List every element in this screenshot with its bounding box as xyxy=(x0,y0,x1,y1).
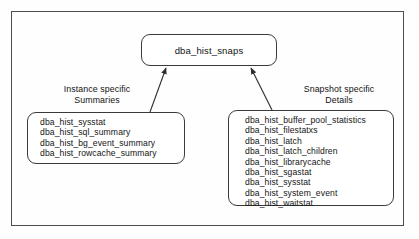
entity-box-snapshot-details[interactable]: dba_hist_buffer_pool_statistics dba_hist… xyxy=(228,110,394,206)
left-group-heading: Instance specific Summaries xyxy=(34,84,160,105)
snapshot-details-list: dba_hist_buffer_pool_statistics dba_hist… xyxy=(245,115,393,209)
entity-box-instance-summaries[interactable]: dba_hist_sysstat dba_hist_sql_summary db… xyxy=(27,112,185,164)
list-item: dba_hist_rowcache_summary xyxy=(40,148,184,158)
list-item: dba_hist_sql_summary xyxy=(40,127,184,137)
left-group-heading-line2: Summaries xyxy=(34,95,160,106)
instance-summaries-list: dba_hist_sysstat dba_hist_sql_summary db… xyxy=(40,117,184,159)
right-group-heading-line1: Snapshot specific xyxy=(278,84,400,95)
left-group-heading-line1: Instance specific xyxy=(34,84,160,95)
right-group-heading: Snapshot specific Details xyxy=(278,84,400,105)
list-item: dba_hist_latch xyxy=(245,136,393,146)
root-entity-label: dba_hist_snaps xyxy=(175,45,244,56)
list-item: dba_hist_sgastat xyxy=(245,167,393,177)
list-item: dba_hist_waitstat xyxy=(245,198,393,208)
list-item: dba_hist_latch_children xyxy=(245,146,393,156)
right-group-heading-line2: Details xyxy=(278,95,400,106)
diagram-canvas: dba_hist_snaps Instance specific Summari… xyxy=(0,0,419,239)
list-item: dba_hist_librarycache xyxy=(245,157,393,167)
list-item: dba_hist_sysstat xyxy=(245,177,393,187)
list-item: dba_hist_sysstat xyxy=(40,117,184,127)
list-item: dba_hist_system_event xyxy=(245,188,393,198)
list-item: dba_hist_bg_event_summary xyxy=(40,138,184,148)
entity-box-root[interactable]: dba_hist_snaps xyxy=(141,34,277,66)
list-item: dba_hist_filestatxs xyxy=(245,125,393,135)
connector-right xyxy=(251,68,272,110)
list-item: dba_hist_buffer_pool_statistics xyxy=(245,115,393,125)
